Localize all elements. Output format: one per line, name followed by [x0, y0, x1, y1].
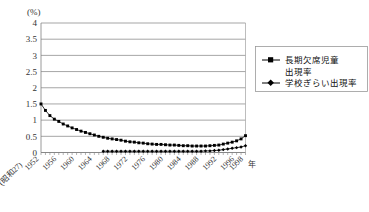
- chart-container: (%) 00.511.522.533.54 195219561960196419…: [0, 0, 369, 212]
- x-axis-tick-label: 1956: [41, 155, 59, 173]
- x-axis-tick-label: 1980: [147, 155, 165, 173]
- y-axis-tick-label: 0.5: [26, 132, 38, 142]
- series-long-term-absence: [40, 102, 247, 147]
- data-series-layer: [40, 102, 248, 152]
- x-axis-tick-label: 1976: [129, 155, 147, 173]
- x-axis-tick-label: 1972: [112, 155, 130, 173]
- x-axis-tick-label: 1984: [165, 155, 183, 173]
- y-axis-unit-label: (%): [27, 7, 41, 17]
- gridlines: [41, 23, 246, 153]
- x-axis-ticks: 1952195619601964196819721976198019841988…: [23, 153, 246, 173]
- y-axis-tick-label: 1: [33, 115, 38, 125]
- legend-square-marker-icon: [268, 57, 273, 62]
- y-axis-tick-label: 1.5: [26, 99, 38, 109]
- x-axis-tick-label: 1960: [58, 155, 76, 173]
- x-axis-era-prefix: (昭和27): [0, 160, 24, 187]
- chart-legend[interactable]: 長期欠席児童 出現率 学校ぎらい出現率: [256, 47, 368, 92]
- legend-label-long-term-absence-line2: 出現率: [285, 67, 312, 77]
- x-axis-tick-label: 1964: [76, 155, 94, 173]
- x-axis-tick-label: 1988: [183, 155, 201, 173]
- x-axis-tick-label: 1992: [201, 155, 219, 173]
- line-chart: (%) 00.511.522.533.54 195219561960196419…: [0, 0, 369, 212]
- y-axis-ticks: 00.511.522.533.54: [26, 18, 38, 158]
- legend-label-school-dislike: 学校ぎらい出現率: [285, 78, 357, 88]
- x-axis-tick-label: 1968: [94, 155, 112, 173]
- y-axis-tick-label: 2.5: [26, 67, 38, 77]
- x-axis-unit-label: 年: [248, 159, 256, 169]
- legend-label-long-term-absence-line1: 長期欠席児童: [285, 55, 339, 65]
- y-axis-tick-label: 3: [33, 51, 38, 61]
- y-axis-tick-label: 3.5: [26, 34, 38, 44]
- y-axis-tick-label: 4: [33, 18, 38, 28]
- x-axis-tick-label: 1952: [23, 155, 41, 173]
- y-axis-tick-label: 2: [33, 83, 38, 93]
